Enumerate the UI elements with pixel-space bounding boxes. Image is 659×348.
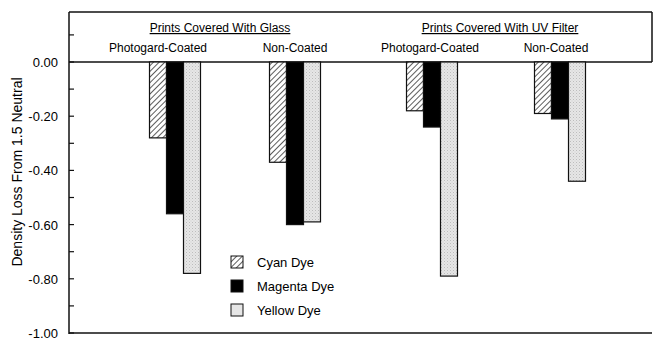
legend-label-magenta: Magenta Dye (257, 279, 334, 294)
group-headers: Prints Covered With Glass Prints Covered… (150, 21, 579, 35)
bar-yellow-dye (184, 62, 201, 273)
legend-swatch-yellow (231, 304, 243, 316)
y-tick-label: -0.80 (28, 272, 58, 287)
bar-chart: 0.00-0.20-0.40-0.60-0.80-1.00 Density Lo… (0, 0, 659, 348)
bars (150, 62, 586, 276)
bar-magenta-dye (167, 62, 184, 214)
group-header-uv-filter: Prints Covered With UV Filter (422, 21, 579, 35)
category-label: Non-Coated (263, 41, 328, 55)
y-tick-label: -0.40 (28, 163, 58, 178)
y-tick-label: 0.00 (33, 55, 58, 70)
category-label: Non-Coated (524, 41, 589, 55)
legend-label-cyan: Cyan Dye (257, 255, 314, 270)
plot-frame (69, 12, 652, 334)
bar-cyan-dye (150, 62, 167, 138)
y-tick-label: -0.20 (28, 109, 58, 124)
y-axis-label: Density Loss From 1.5 Neutral (9, 77, 25, 266)
bar-cyan-dye (535, 62, 552, 113)
bar-cyan-dye (270, 62, 287, 162)
group-header-glass: Prints Covered With Glass (150, 21, 291, 35)
legend-swatch-cyan (231, 256, 243, 268)
legend: Cyan Dye Magenta Dye Yellow Dye (231, 255, 334, 318)
bar-magenta-dye (552, 62, 569, 119)
bar-cyan-dye (407, 62, 424, 111)
bar-yellow-dye (304, 62, 321, 222)
legend-label-yellow: Yellow Dye (257, 303, 321, 318)
bar-yellow-dye (569, 62, 586, 181)
legend-swatch-magenta (231, 280, 243, 292)
bar-magenta-dye (287, 62, 304, 225)
category-label: Photogard-Coated (109, 41, 207, 55)
bar-magenta-dye (424, 62, 441, 127)
y-tick-label: -0.60 (28, 218, 58, 233)
y-tick-labels: 0.00-0.20-0.40-0.60-0.80-1.00 (28, 55, 58, 341)
category-label: Photogard-Coated (381, 41, 479, 55)
bar-yellow-dye (441, 62, 458, 276)
y-tick-label: -1.00 (28, 326, 58, 341)
category-labels: Photogard-CoatedNon-CoatedPhotogard-Coat… (109, 41, 588, 55)
